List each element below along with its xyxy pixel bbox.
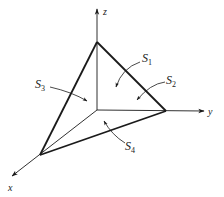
edge-z-y <box>97 42 166 111</box>
y-axis-label: y <box>207 106 213 117</box>
x-axis-label: x <box>7 182 13 193</box>
tetrahedron-diagram: z y x S1 S2 S3 S4 <box>0 0 224 197</box>
s2-arrow <box>137 82 165 100</box>
s2-label: S2 <box>166 73 176 89</box>
s1-label: S1 <box>142 51 152 67</box>
s4-label: S4 <box>125 139 135 155</box>
s3-label: S3 <box>35 77 45 93</box>
y-axis <box>97 110 204 111</box>
z-axis-label: z <box>102 6 107 17</box>
x-axis <box>12 110 97 176</box>
